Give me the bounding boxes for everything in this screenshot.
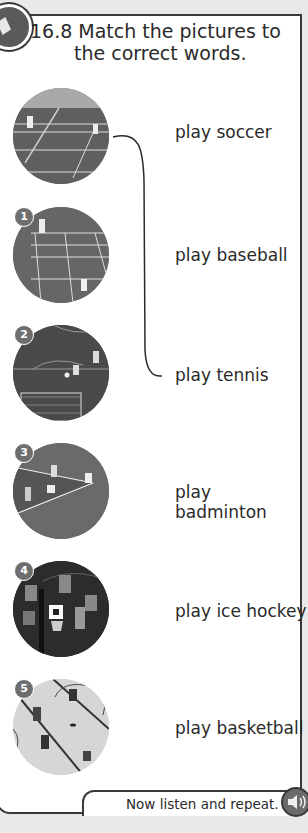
picture-badge: 2 bbox=[14, 325, 34, 345]
exercise-title: 16.8Match the pictures to the correct wo… bbox=[30, 20, 300, 64]
picture-tennis[interactable] bbox=[13, 88, 109, 184]
audio-play-button[interactable] bbox=[281, 787, 308, 817]
listen-banner: Now listen and repeat. bbox=[82, 790, 292, 816]
picture-badge: 1 bbox=[14, 207, 34, 227]
word-option[interactable]: play tennis bbox=[175, 365, 269, 385]
word-option[interactable]: play badminton bbox=[175, 482, 308, 522]
picture-badge: 3 bbox=[14, 443, 34, 463]
listen-instruction: Now listen and repeat. bbox=[126, 796, 279, 812]
title-line-1: Match the pictures to bbox=[78, 20, 281, 42]
exercise-number: 16.8 bbox=[30, 20, 72, 42]
word-option[interactable]: play soccer bbox=[175, 122, 272, 142]
word-option[interactable]: play basketball bbox=[175, 718, 303, 738]
word-option[interactable]: play baseball bbox=[175, 245, 288, 265]
speaker-icon bbox=[283, 789, 308, 815]
word-option[interactable]: play ice hockey bbox=[175, 601, 307, 621]
picture-badge: 4 bbox=[14, 561, 34, 581]
tennis-court-photo-icon bbox=[13, 88, 109, 184]
picture-badge: 5 bbox=[14, 679, 34, 699]
title-line-2: the correct words. bbox=[30, 42, 300, 64]
